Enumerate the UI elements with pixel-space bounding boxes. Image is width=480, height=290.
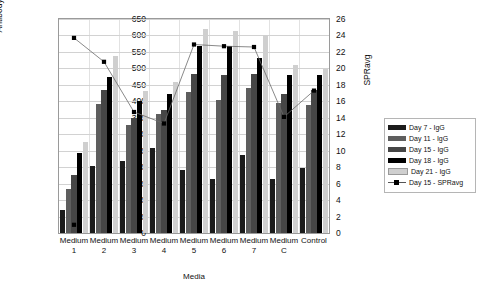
legend-item-label: Day 7 - IgG bbox=[409, 124, 445, 131]
legend-swatch-icon bbox=[388, 147, 406, 152]
legend-item[interactable]: Day 15 - IgG bbox=[388, 144, 472, 155]
y-tick-label-right: 24 bbox=[336, 31, 362, 40]
x-tick-label-line1: Control bbox=[294, 236, 334, 246]
legend-item-label: Day 18 - IgG bbox=[409, 157, 449, 164]
y-axis-title-right: SPRavg bbox=[362, 40, 372, 100]
x-tick-label: Control bbox=[294, 236, 334, 246]
x-axis-title: Media bbox=[58, 272, 330, 281]
spr-marker bbox=[102, 60, 106, 64]
chart-container: Antibody Yield (mg/L) SPRavg Media 05010… bbox=[0, 0, 480, 290]
y-tick-label-right: 18 bbox=[336, 81, 362, 90]
legend-marker-icon bbox=[388, 179, 406, 186]
spr-marker bbox=[132, 110, 136, 114]
y-tick-label-right: 14 bbox=[336, 114, 362, 123]
spr-marker bbox=[282, 115, 286, 119]
legend-item-label: Day 11 - IgG bbox=[409, 135, 448, 142]
legend-swatch-icon bbox=[388, 136, 406, 141]
spr-marker bbox=[162, 121, 166, 125]
y-tick-label-right: 10 bbox=[336, 147, 362, 156]
y-tick-label-right: 2 bbox=[336, 213, 362, 222]
chart-legend: Day 7 - IgGDay 11 - IgGDay 15 - IgGDay 1… bbox=[384, 118, 476, 193]
legend-item[interactable]: Day 21 - IgG bbox=[388, 166, 472, 177]
spr-marker bbox=[192, 42, 196, 46]
legend-swatch-icon bbox=[388, 168, 408, 175]
y-tick-label-right: 6 bbox=[336, 180, 362, 189]
legend-swatch-icon bbox=[388, 125, 406, 130]
legend-item[interactable]: Day 15 - SPRavg bbox=[388, 177, 472, 188]
spr-marker bbox=[222, 44, 226, 48]
spr-line-series bbox=[59, 19, 329, 233]
y-tick-label-right: 0 bbox=[336, 229, 362, 238]
y-tick-label-right: 22 bbox=[336, 48, 362, 57]
x-tick-label-line2: C bbox=[264, 246, 304, 256]
y-axis-title-left: Antibody Yield (mg/L) bbox=[0, 0, 4, 62]
legend-swatch-icon bbox=[388, 158, 406, 163]
spr-marker bbox=[72, 36, 76, 40]
legend-item-label: Day 15 - SPRavg bbox=[409, 179, 463, 186]
spr-marker bbox=[252, 45, 256, 49]
legend-item[interactable]: Day 11 - IgG bbox=[388, 133, 472, 144]
spr-polyline bbox=[74, 38, 314, 124]
spr-marker bbox=[312, 89, 316, 93]
y-tick-label-right: 4 bbox=[336, 196, 362, 205]
y-tick-label-right: 16 bbox=[336, 97, 362, 106]
y-tick-label-right: 12 bbox=[336, 130, 362, 139]
legend-item[interactable]: Day 18 - IgG bbox=[388, 155, 472, 166]
legend-item-label: Day 21 - IgG bbox=[411, 168, 451, 175]
legend-item-label: Day 15 - IgG bbox=[409, 146, 449, 153]
y-tick-label-right: 8 bbox=[336, 163, 362, 172]
y-tick-label-right: 20 bbox=[336, 64, 362, 73]
spr-marker bbox=[72, 223, 76, 227]
legend-item[interactable]: Day 7 - IgG bbox=[388, 122, 472, 133]
y-tick-label-right: 26 bbox=[336, 15, 362, 24]
